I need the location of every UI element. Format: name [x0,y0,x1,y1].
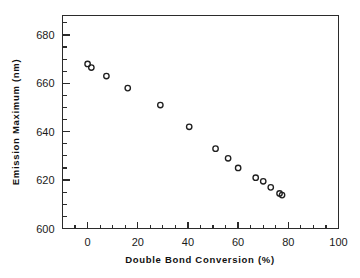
chart-figure: 600620640660680 020406080100 Double Bond… [0,0,360,278]
data-point [89,65,94,70]
data-point [235,165,240,170]
x-tick-label: 20 [132,236,144,248]
data-point [187,124,192,129]
data-point [125,85,130,90]
y-axis-tick-labels: 600620640660680 [36,29,54,235]
y-axis-title: Emission Maximum (nm) [10,59,21,186]
x-tick-label: 40 [182,236,194,248]
y-tick-label: 620 [36,174,54,186]
data-point [158,102,163,107]
x-axis-title: Double Bond Conversion (%) [125,254,275,265]
x-axis-ticks [63,222,339,229]
data-point [213,146,218,151]
data-point [104,73,109,78]
y-axis-ticks [63,23,70,229]
data-point [253,175,258,180]
y-tick-label: 640 [36,126,54,138]
x-tick-label: 0 [85,236,91,248]
y-tick-label: 680 [36,29,54,41]
y-tick-label: 600 [36,223,54,235]
data-point [261,179,266,184]
x-tick-label: 80 [282,236,294,248]
data-point [225,156,230,161]
scatter-plot: 600620640660680 020406080100 Double Bond… [0,0,360,278]
x-tick-label: 60 [232,236,244,248]
data-point [268,185,273,190]
data-point-group [85,61,285,198]
x-tick-label: 100 [329,236,347,248]
y-tick-label: 660 [36,77,54,89]
plot-frame [63,16,339,229]
x-axis-tick-labels: 020406080100 [85,236,348,248]
